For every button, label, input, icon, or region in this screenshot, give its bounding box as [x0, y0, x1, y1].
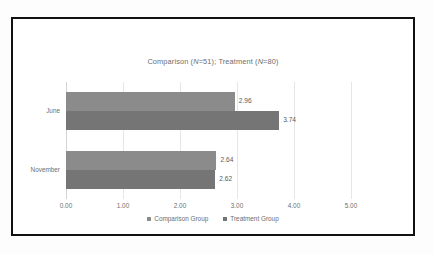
- x-tick-0.00: 0.00: [60, 203, 72, 209]
- chart-title-part-c: =80): [263, 57, 278, 66]
- legend-swatch-icon-1: [223, 217, 227, 221]
- legend-label: Treatment Group: [230, 216, 278, 222]
- bar-june-treatment-group[interactable]: [66, 111, 279, 130]
- chart-title: Comparison (N=51); Treatment (N=80): [13, 57, 413, 66]
- x-tick-3.00: 3.00: [231, 203, 243, 209]
- x-tick-5.00: 5.00: [345, 203, 357, 209]
- x-tick-4.00: 4.00: [288, 203, 300, 209]
- category-label-june: June: [46, 108, 60, 114]
- bar-november-treatment-group[interactable]: [66, 170, 215, 189]
- x-tick-1.00: 1.00: [117, 203, 129, 209]
- category-axis: JuneNovember: [13, 82, 60, 199]
- screenshot-page: Comparison (N=51); Treatment (N=80) June…: [0, 0, 433, 255]
- figure-frame: Comparison (N=51); Treatment (N=80) June…: [11, 17, 415, 236]
- chart-legend: Comparison GroupTreatment Group: [13, 216, 413, 222]
- category-label-november: November: [31, 167, 60, 173]
- gridline-4.00: [294, 82, 295, 199]
- chart-title-part-a: Comparison (: [147, 57, 193, 66]
- data-label-november-comparison-group: 2.64: [220, 157, 233, 164]
- bar-november-comparison-group[interactable]: [66, 151, 216, 170]
- data-label-november-treatment-group: 2.62: [219, 176, 232, 183]
- data-label-june-treatment-group: 3.74: [283, 117, 296, 124]
- legend-swatch-icon-0: [147, 217, 151, 221]
- legend-label: Comparison Group: [154, 216, 208, 222]
- value-axis: 0.001.002.003.004.005.00: [66, 199, 351, 213]
- legend-item-comparison-group[interactable]: Comparison Group: [147, 216, 208, 222]
- bar-june-comparison-group[interactable]: [66, 92, 235, 111]
- gridline-5.00: [351, 82, 352, 199]
- chart-title-part-b: =51); Treatment (: [199, 57, 258, 66]
- bar-chart: Comparison (N=51); Treatment (N=80) June…: [13, 19, 413, 234]
- legend-item-treatment-group[interactable]: Treatment Group: [223, 216, 278, 222]
- data-label-june-comparison-group: 2.96: [239, 98, 252, 105]
- plot-area: 2.963.742.642.62: [66, 82, 351, 199]
- x-tick-2.00: 2.00: [174, 203, 186, 209]
